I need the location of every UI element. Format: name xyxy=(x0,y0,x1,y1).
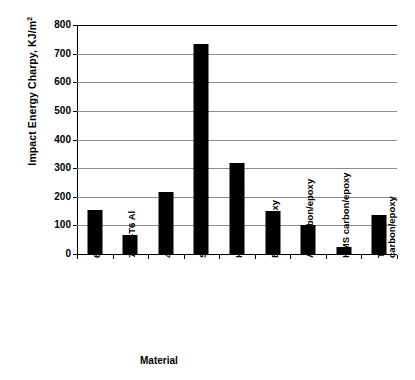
y-axis-tick-label: 700 xyxy=(37,49,71,59)
x-axis-title: Material xyxy=(140,355,178,366)
y-axis-tick-mark xyxy=(73,140,77,141)
y-axis-tick-mark xyxy=(73,168,77,169)
y-axis-tick-label: 200 xyxy=(37,192,71,202)
y-axis-tick-label: 100 xyxy=(37,220,71,230)
x-axis-ticks: 6061-T6 Al7075-T6 Al4340 SteelS Glass/ep… xyxy=(77,258,397,368)
y-axis-tick-mark xyxy=(73,197,77,198)
x-axis-tick-label: 7075-T6 Al xyxy=(126,148,137,258)
y-axis-tick-label: 300 xyxy=(37,163,71,173)
x-axis-tick-label: 4340 Steel xyxy=(162,148,173,258)
y-axis-tick-mark xyxy=(73,25,77,26)
x-axis-tick-label: AS Carbon/epoxy xyxy=(304,148,315,258)
y-axis-tick-label: 800 xyxy=(37,20,71,30)
x-axis-tick-label: 6061-T6 Al xyxy=(91,148,102,258)
y-axis-tick-mark xyxy=(73,54,77,55)
y-axis-tick-label: 600 xyxy=(37,77,71,87)
y-axis-tick-mark xyxy=(73,225,77,226)
y-axis-title-superscript: 2 xyxy=(26,17,33,21)
y-axis-tick-label: 400 xyxy=(37,135,71,145)
y-axis-tick-label: 500 xyxy=(37,106,71,116)
y-axis-tick-mark xyxy=(73,254,77,255)
x-axis-tick-label: HMS carbon/epoxy xyxy=(340,148,351,258)
y-axis-tick-mark xyxy=(73,111,77,112)
x-axis-tick-mark xyxy=(397,255,398,259)
x-axis-tick-label: S Glass/epoxy xyxy=(197,148,208,258)
x-axis-tick-label: T-300 carbon/epoxy xyxy=(375,148,397,258)
bar-chart: Impact Energy Charpy, KJ/m2 010020030040… xyxy=(0,0,415,380)
x-axis-tick-label: Kevlar 49/epoxy xyxy=(233,148,244,258)
x-axis-tick-label: Boron/epoxy xyxy=(269,148,280,258)
y-axis-tick-mark xyxy=(73,82,77,83)
y-axis-tick-label: 0 xyxy=(37,249,71,259)
